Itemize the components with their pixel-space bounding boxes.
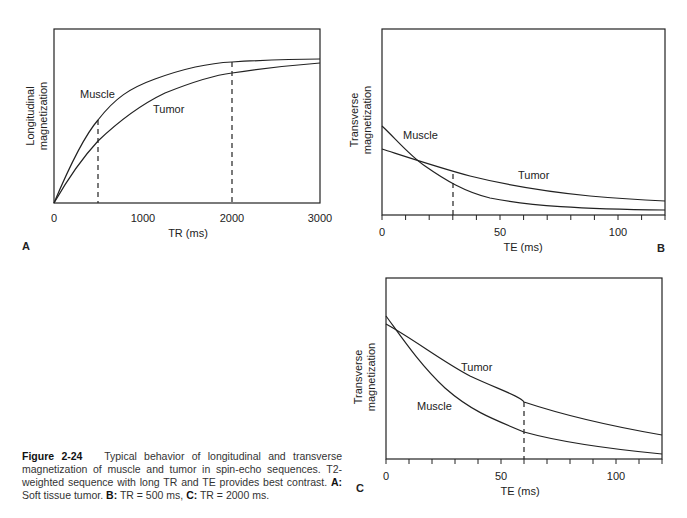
panel-letter: A [22, 240, 30, 252]
muscle-label: Muscle [80, 88, 115, 100]
caption-label: Figure 2-24 [22, 450, 82, 462]
x-axis-label: TE (ms) [500, 485, 539, 497]
y-axis-label-line2: magnetization [361, 86, 373, 155]
figure-caption: Figure 2-24 Typical behavior of longitud… [22, 450, 342, 502]
y-axis-label-line1: Transverse [352, 350, 364, 405]
chart-panel-c: Tumor Muscle Transverse magnetization 0 … [340, 250, 687, 518]
x-minor-ticks [386, 459, 662, 464]
chart-panel-b: Muscle Tumor Transverse magnetization 0 … [340, 0, 687, 260]
x-axis-label: TR (ms) [168, 227, 208, 239]
x-tick-3000: 3000 [308, 212, 332, 224]
x-tick-0: 0 [383, 470, 389, 482]
x-tick-50: 50 [495, 470, 507, 482]
tumor-label: Tumor [518, 169, 550, 181]
caption-a-text: Soft tissue tumor. [22, 489, 103, 501]
caption-a-label: A: [331, 476, 342, 488]
tumor-curve [386, 324, 662, 435]
tumor-label: Tumor [153, 103, 185, 115]
plot-frame [54, 29, 320, 203]
caption-c-label: C: [186, 489, 197, 501]
x-tick-0: 0 [51, 212, 57, 224]
y-axis-label-line2: magnetization [365, 343, 377, 412]
tumor-curve [54, 63, 320, 203]
x-tick-1000: 1000 [131, 212, 155, 224]
x-minor-ticks [382, 215, 665, 220]
caption-b-text: TR = 500 ms, [120, 489, 183, 501]
x-tick-0: 0 [379, 226, 385, 238]
x-tick-100: 100 [607, 470, 625, 482]
y-axis-label-line1: Transverse [348, 93, 360, 148]
tumor-label: Tumor [461, 361, 493, 373]
x-tick-100: 100 [609, 226, 627, 238]
caption-c-text: TR = 2000 ms. [200, 489, 269, 501]
panel-letter: C [356, 482, 364, 494]
y-axis-label-line1: Longitudinal [24, 86, 36, 145]
muscle-curve [54, 59, 320, 203]
chart-panel-a: Muscle Tumor Longitudinal magnetization … [0, 0, 345, 260]
y-axis-label-line2: magnetization [37, 82, 49, 151]
caption-b-label: B: [106, 489, 117, 501]
x-tick-50: 50 [494, 226, 506, 238]
muscle-label: Muscle [403, 129, 438, 141]
x-tick-2000: 2000 [220, 212, 244, 224]
muscle-label: Muscle [417, 400, 452, 412]
